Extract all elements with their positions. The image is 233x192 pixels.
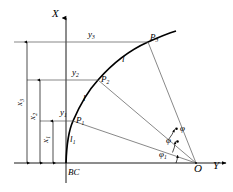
- abscissa-label-x1-base: x: [40, 139, 50, 143]
- point-label-p2-sub: 2: [107, 79, 110, 85]
- point-label-p3: P3: [150, 33, 158, 42]
- x-axis-label: X: [52, 8, 59, 19]
- abscissa-label-x1: x1: [41, 136, 50, 143]
- point-label-p1: P1: [76, 116, 84, 125]
- radial-line-p2: [98, 80, 196, 163]
- angle-vertex-dot-lower: [175, 128, 178, 131]
- ordinate-label-y2-sub: 2: [76, 72, 79, 78]
- point-label-p1-sub: 1: [82, 120, 85, 126]
- abscissa-label-x2: x2: [28, 113, 37, 120]
- angle-label-phi2: φ: [166, 136, 171, 145]
- chord-label-l3: l: [122, 55, 125, 64]
- angle-label-phi1: φ1: [159, 150, 167, 159]
- ordinate-label-y3: y3: [88, 30, 95, 39]
- curve-start-label: BC: [68, 168, 80, 177]
- abscissa-label-x3-base: x: [14, 102, 24, 106]
- angle-label-phi3: φ: [180, 124, 185, 133]
- point-label-p2: P2: [101, 75, 109, 84]
- point-label-p3-sub: 3: [156, 37, 159, 43]
- point-label-p1-base: P: [76, 115, 82, 125]
- abscissa-label-x2-sub: 2: [31, 113, 37, 116]
- point-label-p2-base: P: [101, 74, 107, 84]
- angle-label-phi3-base: φ: [180, 123, 185, 133]
- ordinate-label-y1-sub: 1: [64, 112, 67, 118]
- abscissa-label-x2-base: x: [27, 116, 37, 120]
- angle-vertex-dot-upper: [176, 140, 179, 143]
- transition-curve-diagram: X Y O BC P1 P2 P3 l1 l l y1 y2 y3 x1 x2 …: [0, 0, 233, 192]
- ordinate-label-y2: y2: [72, 68, 79, 77]
- point-label-p3-base: P: [150, 32, 156, 42]
- y-axis-label: Y: [213, 160, 219, 171]
- chord-label-l3-base: l: [122, 54, 125, 64]
- angle-label-phi1-sub: 1: [164, 154, 167, 160]
- abscissa-label-x1-sub: 1: [44, 136, 50, 139]
- ordinate-label-y3-sub: 3: [92, 34, 95, 40]
- origin-label: O: [194, 163, 202, 174]
- chord-label-l2-base: l: [83, 93, 86, 103]
- chord-label-l1: l1: [70, 135, 75, 144]
- abscissa-label-x3-sub: 3: [18, 99, 24, 102]
- angle-label-phi2-base: φ: [166, 135, 171, 145]
- chord-label-l2: l: [83, 94, 86, 103]
- radial-line-p3: [148, 42, 196, 163]
- ordinate-label-y1: y1: [60, 108, 67, 117]
- chord-label-l1-sub: 1: [73, 139, 76, 145]
- abscissa-label-x3: x3: [15, 99, 24, 106]
